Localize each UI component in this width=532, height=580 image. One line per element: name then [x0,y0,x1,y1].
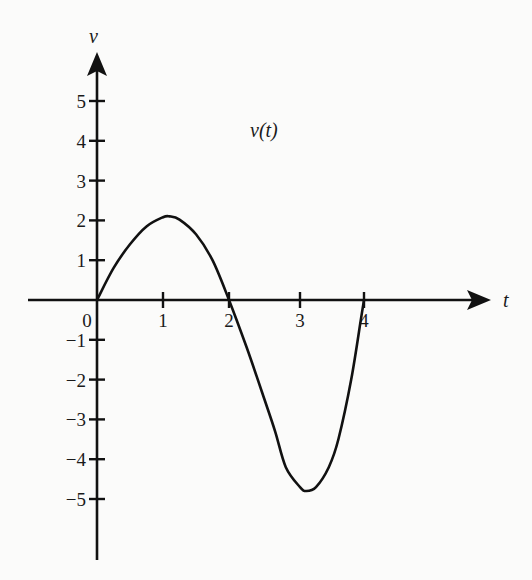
y-tick-label: −5 [66,489,86,510]
y-tick-label: −4 [66,449,87,470]
x-axis-label: t [503,289,509,311]
y-tick-label: 2 [77,210,87,231]
y-tick-label: 3 [77,171,87,192]
x-tick-label: 1 [158,310,168,331]
y-axis: v [87,25,107,560]
y-tick-label: −1 [66,330,86,351]
curve-label: v(t) [250,119,278,142]
x-tick-label: 0 [82,310,92,331]
y-axis-label: v [89,25,98,47]
chart: v t 54321−1−2−3−4−5 01234 v(t) [0,0,532,580]
x-tick-label: 3 [295,310,305,331]
y-tick-label: −2 [66,370,86,391]
y-tick-label: 4 [77,131,87,152]
y-tick-label: −3 [66,409,86,430]
y-tick-label: 5 [77,91,87,112]
x-tick-label: 2 [224,310,234,331]
y-tick-label: 1 [77,250,87,271]
x-ticks: 01234 [82,292,369,331]
curve-v-of-t [97,216,364,491]
